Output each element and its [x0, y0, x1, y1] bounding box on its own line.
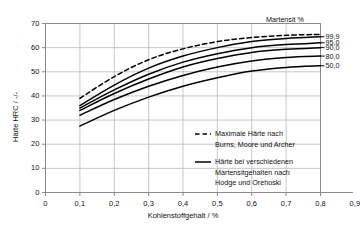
x-tick-label: 0,5	[212, 199, 223, 208]
legend-entry-text: Martensitgehalten nach	[215, 168, 290, 177]
x-tick-label: 0,7	[281, 199, 292, 208]
y-tick-label: 10	[0, 163, 40, 172]
data-curves	[80, 34, 325, 126]
legend-entry-text: Härte bei verschiedenen	[215, 157, 293, 166]
legend-entry-text: Hodge und Orehoski	[215, 178, 281, 187]
series-end-label-80,0: 80,0	[326, 52, 340, 61]
y-tick-label: 50	[0, 67, 40, 76]
legend-entry-text: Maximale Härte nach	[215, 129, 283, 138]
tick-marks	[42, 24, 353, 197]
x-tick-label: 0,4	[178, 199, 189, 208]
y-tick-label: 0	[0, 188, 40, 197]
y-tick-label: 40	[0, 91, 40, 100]
legend-swatches	[195, 134, 211, 162]
x-tick-label: 0	[43, 199, 47, 208]
y-tick-label: 70	[0, 19, 40, 28]
legend-entry-text: Burns, Moore und Archer	[215, 140, 295, 149]
x-tick-label: 0,9	[350, 199, 360, 208]
series-end-label-50,0: 50,0	[326, 61, 340, 70]
curve-80,0	[80, 56, 321, 115]
y-tick-label: 30	[0, 115, 40, 124]
y-tick-label: 60	[0, 43, 40, 52]
x-tick-label: 0,2	[109, 199, 120, 208]
y-tick-label: 20	[0, 139, 40, 148]
x-tick-label: 0,3	[143, 199, 154, 208]
x-axis-title: Kohlenstoffgehalt / %	[148, 211, 219, 220]
x-tick-label: 0,8	[315, 199, 326, 208]
series-group-title: Martensit %	[266, 15, 304, 24]
x-tick-label: 0,6	[246, 199, 257, 208]
x-tick-label: 0,1	[75, 199, 86, 208]
